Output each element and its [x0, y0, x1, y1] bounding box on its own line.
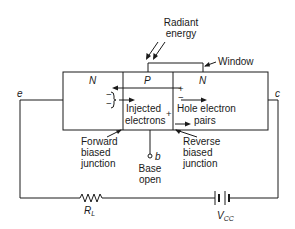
hole-electron-pairs-label-1: Hole electron — [177, 103, 236, 114]
base-region-label: P — [144, 75, 151, 86]
resistor-symbol: R — [84, 205, 91, 216]
base-terminal-label: b — [155, 151, 161, 162]
arrowhead-reverse-leader — [175, 130, 181, 135]
phototransistor-diagram: N P N Radiant energy Window e c b − − + … — [0, 0, 295, 229]
forward-junction-label-2: biased — [81, 147, 110, 158]
radiant-energy-label-2: energy — [166, 28, 197, 39]
forward-junction-label-3: junction — [80, 158, 115, 169]
base-terminal — [148, 154, 152, 158]
forward-junction-label-1: Forward — [81, 136, 118, 147]
emitter-region-label: N — [89, 75, 97, 86]
collector-wire — [230, 100, 278, 198]
arrowhead-hole-flow — [201, 98, 207, 103]
reverse-junction-label-1: Reverse — [183, 136, 221, 147]
arrowhead-window — [204, 62, 210, 67]
supply-subscript: CC — [224, 215, 235, 222]
supply-voltage-label: VCC — [217, 210, 235, 222]
charge-bracket — [111, 92, 116, 108]
collector-terminal-label: c — [275, 88, 280, 99]
hole-electron-pairs-label-2: pairs — [194, 115, 216, 126]
load-resistor — [80, 194, 102, 202]
base-open-label-2: open — [139, 174, 161, 185]
arrowhead-electron-flow — [112, 86, 118, 91]
injected-electrons-label-1: Injected — [126, 103, 161, 114]
load-resistor-label: RL — [84, 205, 95, 217]
reverse-junction-label-2: biased — [183, 147, 212, 158]
collector-region-label: N — [199, 75, 207, 86]
arrowhead-injection — [129, 98, 135, 103]
radiant-energy-label-1: Radiant — [164, 17, 199, 28]
arrowhead-collector-current — [185, 122, 191, 127]
emitter-wire — [20, 100, 80, 198]
window — [148, 63, 203, 72]
minus-sign-2: − — [106, 98, 112, 109]
emitter-terminal-label: e — [17, 88, 23, 99]
injected-electrons-label-2: electrons — [125, 115, 166, 126]
minus-sign-collector: − — [178, 92, 184, 103]
reverse-junction-label-3: junction — [182, 158, 217, 169]
resistor-subscript: L — [91, 210, 95, 217]
plus-sign-bottom: + — [166, 108, 172, 119]
base-open-label-1: Base — [139, 163, 162, 174]
window-label: Window — [218, 56, 254, 67]
